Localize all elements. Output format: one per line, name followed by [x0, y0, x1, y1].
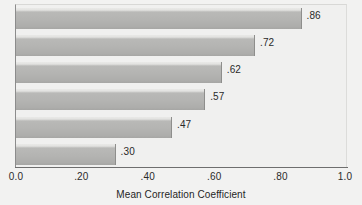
x-tick-label: .60	[207, 171, 222, 182]
plot-area: .86.72.62.57.47.30	[15, 4, 347, 167]
x-tick-label: 0.0	[9, 171, 24, 182]
bar[interactable]	[16, 117, 172, 138]
bar-chart: .86.72.62.57.47.30 0.0.20.40.60.801.0 Me…	[0, 0, 362, 205]
x-tick-label: .20	[74, 171, 89, 182]
bar-row: .62	[16, 59, 346, 86]
bar-value-label: .86	[307, 10, 321, 21]
x-tick-label: 1.0	[338, 171, 353, 182]
x-axis-line	[15, 167, 348, 168]
bar[interactable]	[16, 35, 255, 56]
bar-series: .86.72.62.57.47.30	[16, 5, 346, 167]
bar-value-label: .47	[177, 119, 191, 130]
bar[interactable]	[16, 62, 222, 83]
bar-row: .30	[16, 141, 346, 168]
bar-row: .47	[16, 114, 346, 141]
x-tick-label: .80	[273, 171, 288, 182]
bar[interactable]	[16, 8, 302, 29]
bar-value-label: .72	[260, 37, 274, 48]
bar-value-label: .62	[227, 64, 241, 75]
bar-row: .72	[16, 32, 346, 59]
x-axis-tick-labels: 0.0.20.40.60.801.0	[0, 171, 362, 185]
bar[interactable]	[16, 144, 116, 165]
bar-value-label: .30	[121, 146, 135, 157]
bar-row: .86	[16, 5, 346, 32]
x-tick-label: .40	[141, 171, 156, 182]
bar[interactable]	[16, 89, 205, 110]
bar-value-label: .57	[210, 91, 224, 102]
x-axis-title: Mean Correlation Coefficient	[0, 189, 362, 200]
bar-row: .57	[16, 86, 346, 113]
